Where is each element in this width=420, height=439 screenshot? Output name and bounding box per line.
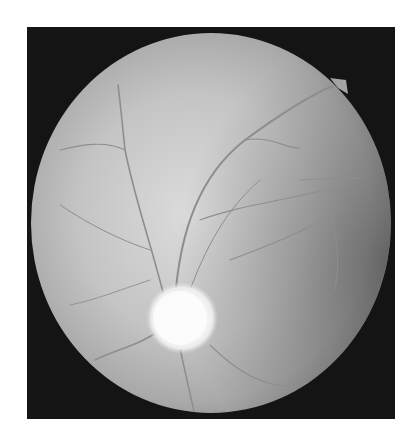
retinal-fundus-image: [0, 0, 420, 439]
optic-disc: [146, 282, 218, 354]
fundus-field: [31, 33, 391, 413]
